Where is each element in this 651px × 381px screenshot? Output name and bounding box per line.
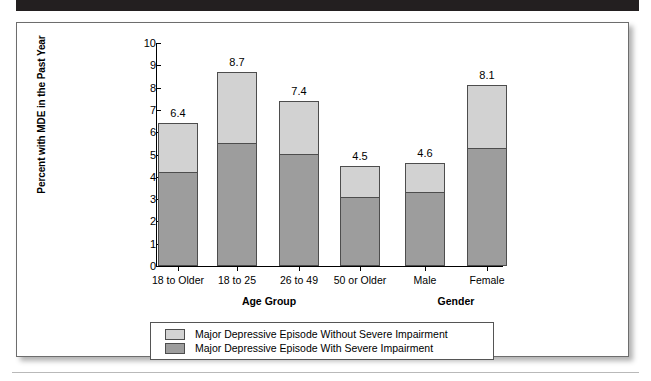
x-axis-tick-mark (487, 267, 488, 271)
bar-50-or-older[interactable] (340, 166, 380, 266)
y-axis-tick-label: 6 (134, 126, 156, 138)
bar-18-to-older[interactable] (158, 123, 198, 266)
y-axis-tick-label: 4 (134, 171, 156, 183)
legend-swatch (165, 343, 185, 354)
segment-with-severe-impairment[interactable] (217, 143, 257, 266)
y-axis-tick-label: 0 (134, 260, 156, 272)
segment-with-severe-impairment[interactable] (340, 197, 380, 266)
bar-value-label: 8.1 (457, 69, 517, 81)
segment-without-severe-impairment[interactable] (217, 72, 257, 144)
bar-18-to-25[interactable] (217, 72, 257, 266)
x-axis-line (156, 266, 503, 267)
bar-value-label: 8.7 (207, 56, 267, 68)
x-axis-tick-mark (425, 267, 426, 271)
bar-value-label: 4.5 (330, 150, 390, 162)
stacked-bar-chart: Percent with MDE in the Past Year 012345… (17, 23, 630, 358)
legend-label: Major Depressive Episode With Severe Imp… (195, 342, 433, 354)
y-axis-tick-label: 10 (134, 37, 156, 49)
legend-label: Major Depressive Episode Without Severe … (195, 328, 448, 340)
figure-panel: Percent with MDE in the Past Year 012345… (16, 22, 629, 357)
bar-value-label: 4.6 (395, 147, 455, 159)
segment-without-severe-impairment[interactable] (405, 163, 445, 193)
legend-swatch (165, 329, 185, 340)
bar-26-to-49[interactable] (279, 101, 319, 266)
y-axis-title: Percent with MDE in the Past Year (36, 15, 47, 215)
legend-item[interactable]: Major Depressive Episode Without Severe … (155, 327, 489, 341)
y-axis-tick-labels: 012345678910 (130, 43, 156, 267)
segment-without-severe-impairment[interactable] (467, 85, 507, 148)
group-label-age-group: Age Group (199, 295, 339, 307)
bar-female[interactable] (467, 85, 507, 266)
y-axis-tick-label: 9 (134, 59, 156, 71)
y-axis-tick-label: 1 (134, 238, 156, 250)
group-label-gender: Gender (386, 295, 526, 307)
segment-without-severe-impairment[interactable] (340, 166, 380, 198)
bar-male[interactable] (405, 163, 445, 266)
x-axis-tick-mark (178, 267, 179, 271)
segment-with-severe-impairment[interactable] (467, 148, 507, 266)
bar-value-label: 7.4 (269, 85, 329, 97)
top-black-band (16, 0, 639, 11)
bar-value-label: 6.4 (148, 107, 208, 119)
segment-with-severe-impairment[interactable] (158, 172, 198, 266)
segment-without-severe-impairment[interactable] (158, 123, 198, 173)
x-axis-tick-mark (299, 267, 300, 271)
segment-with-severe-impairment[interactable] (279, 154, 319, 266)
x-axis-tick-mark (237, 267, 238, 271)
x-axis-tick-mark (360, 267, 361, 271)
legend-item[interactable]: Major Depressive Episode With Severe Imp… (155, 341, 489, 355)
bottom-rule (12, 372, 639, 373)
y-axis-tick-label: 3 (134, 193, 156, 205)
y-axis-tick-label: 8 (134, 82, 156, 94)
segment-with-severe-impairment[interactable] (405, 192, 445, 266)
segment-without-severe-impairment[interactable] (279, 101, 319, 156)
x-axis-category-label: Female (441, 274, 533, 286)
y-axis-tick-label: 2 (134, 215, 156, 227)
chart-legend: Major Depressive Episode Without Severe … (150, 322, 494, 360)
y-axis-tick-label: 5 (134, 149, 156, 161)
